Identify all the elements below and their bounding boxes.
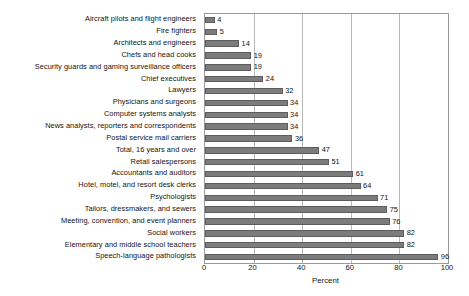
category-label: Chefs and head cooks [121,51,196,58]
bar-value-label: 32 [285,87,293,94]
horizontal-bar-chart: Aircraft pilots and flight engineersFire… [0,0,469,296]
x-tick-label: 20 [248,264,256,272]
bar-row: 5 [205,26,448,38]
bar-row: 47 [205,144,448,156]
bar [205,76,263,82]
bar-row: 34 [205,121,448,133]
bar [205,52,251,58]
bar-row: 61 [205,168,448,180]
bar-row: 51 [205,156,448,168]
category-label: Architects and engineers [113,39,196,46]
bar-value-label: 64 [363,182,371,189]
category-label: Total, 16 years and over [116,146,196,153]
bar-row: 24 [205,73,448,85]
bar-row: 32 [205,85,448,97]
bar-row: 75 [205,204,448,216]
category-label: Fire fighters [156,27,196,34]
bar [205,29,217,35]
bar-row: 4 [205,14,448,26]
bar [205,64,251,70]
category-label-row: Speech-language pathologists [0,250,200,262]
category-label: Postal service mail carriers [106,134,196,141]
bar-value-label: 34 [290,111,298,118]
category-label-row: Aircraft pilots and flight engineers [0,13,200,25]
category-label-row: Social workers [0,226,200,238]
x-tick-label: 60 [346,264,354,272]
bar [205,206,387,212]
bar-row: 64 [205,180,448,192]
category-label-row: Psychologists [0,191,200,203]
category-label-row: Chief executives [0,72,200,84]
bar [205,123,288,129]
x-tick-label: 0 [202,264,206,272]
category-label: Chief executives [141,75,196,82]
category-axis-labels: Aircraft pilots and flight engineersFire… [0,13,200,262]
category-label: Elementary and middle school teachers [65,241,196,248]
category-label-row: Lawyers [0,84,200,96]
category-label-row: Retail salespersons [0,155,200,167]
x-tick-label: 40 [297,264,305,272]
bar [205,218,390,224]
category-label-row: Meeting, convention, and event planners [0,215,200,227]
category-label: Security guards and gaming surveillance … [35,63,196,70]
category-label: Lawyers [168,86,196,93]
bar [205,230,404,236]
bar [205,183,361,189]
bar [205,88,283,94]
category-label-row: Postal service mail carriers [0,132,200,144]
bar-value-label: 75 [390,206,398,213]
bar [205,171,353,177]
bar [205,17,215,23]
bar-value-label: 19 [254,52,262,59]
bar [205,159,329,165]
bar [205,147,319,153]
category-label: Hotel, motel, and resort desk clerks [78,181,196,188]
plot-area: 4514191924323434343647516164717576828296 [204,13,449,264]
category-label-row: Accountants and auditors [0,167,200,179]
bar-row: 19 [205,50,448,62]
bar-value-label: 36 [295,135,303,142]
bar-value-label: 51 [331,159,339,166]
bar [205,112,288,118]
bar-row: 76 [205,216,448,228]
bar-value-label: 96 [441,253,449,260]
bar [205,100,288,106]
bar-value-label: 5 [220,28,224,35]
bar-row: 19 [205,61,448,73]
x-tick-label: 100 [441,264,454,272]
x-axis-title: Percent [204,277,447,285]
bar-row: 82 [205,227,448,239]
category-label-row: Physicians and surgeons [0,96,200,108]
bar [205,254,438,260]
bar [205,195,378,201]
category-label-row: Computer systems analysts [0,108,200,120]
category-label: Aircraft pilots and flight engineers [85,15,196,22]
bar-value-label: 14 [242,40,250,47]
category-label: Social workers [147,229,196,236]
category-label-row: Hotel, motel, and resort desk clerks [0,179,200,191]
bar-row: 36 [205,133,448,145]
bar [205,40,239,46]
bar-row: 34 [205,97,448,109]
category-label: Accountants and auditors [111,169,196,176]
category-label: Psychologists [150,193,196,200]
category-label: Physicians and surgeons [113,98,196,105]
bar-series: 4514191924323434343647516164717576828296 [205,14,448,263]
bar-value-label: 82 [407,230,415,237]
category-label-row: News analysts, reporters and corresponde… [0,120,200,132]
category-label: Retail salespersons [131,158,196,165]
category-label-row: Tailors, dressmakers, and sewers [0,203,200,215]
bar-value-label: 24 [266,76,274,83]
bar-value-label: 34 [290,99,298,106]
bar-row: 96 [205,251,448,263]
x-tick-label: 80 [394,264,402,272]
category-label-row: Fire fighters [0,25,200,37]
category-label-row: Security guards and gaming surveillance … [0,60,200,72]
category-label: Computer systems analysts [104,110,196,117]
bar-value-label: 76 [392,218,400,225]
category-label-row: Chefs and head cooks [0,49,200,61]
bar-row: 82 [205,239,448,251]
bar-value-label: 47 [322,147,330,154]
category-label: News analysts, reporters and corresponde… [45,122,196,129]
bar-row: 34 [205,109,448,121]
